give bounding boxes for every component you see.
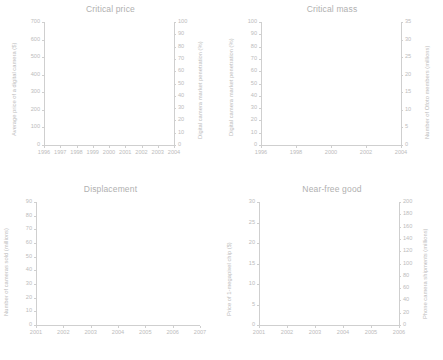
y2-tick-mark (401, 40, 403, 41)
x-tick-mark (401, 146, 402, 148)
y2-tick-mark (399, 214, 401, 215)
y2-tick-mark (401, 57, 403, 58)
x-tick-mark (118, 326, 119, 328)
x-tick-mark (109, 146, 110, 148)
y-tick-mark (42, 22, 44, 23)
x-tick-label: 2003 (84, 330, 96, 336)
y-tick-label: 300 (18, 89, 40, 95)
y-tick-mark (42, 127, 44, 128)
x-tick-mark (331, 146, 332, 148)
y-tick-label: 50 (235, 81, 257, 87)
y-tick-label: 60 (235, 68, 257, 74)
x-tick-label: 2004 (395, 150, 407, 156)
y-tick-mark (257, 284, 259, 285)
y-tick-label: 0 (233, 322, 255, 328)
y2-tick-label: 30 (405, 37, 425, 43)
y2-tick-label: 20 (403, 310, 423, 316)
x-tick-label: 2000 (103, 150, 115, 156)
y-tick-mark (259, 84, 261, 85)
y2-tick-mark (174, 71, 176, 72)
y2-axis-title: Phone camera shipments (millions) (423, 228, 429, 319)
x-tick-mark (173, 326, 174, 328)
y-tick-mark (34, 270, 36, 271)
y-tick-mark (34, 243, 36, 244)
x-tick-label: 1996 (38, 150, 50, 156)
x-tick-label: 2002 (281, 330, 293, 336)
y2-tick-mark (401, 75, 403, 76)
y-tick-label: 500 (18, 54, 40, 60)
y-tick-mark (34, 202, 36, 203)
panel-displacement: Displacement 010203040506070809020012002… (0, 180, 221, 360)
y-axis-line (259, 202, 260, 325)
y-tick-mark (34, 298, 36, 299)
y2-tick-mark (174, 22, 176, 23)
x-tick-label: 2004 (168, 150, 180, 156)
y-tick-label: 25 (233, 220, 255, 226)
y2-tick-label: 15 (405, 89, 425, 95)
y-tick-mark (259, 59, 261, 60)
y-tick-label: 0 (18, 142, 40, 148)
y-tick-mark (34, 229, 36, 230)
x-tick-label: 2002 (135, 150, 147, 156)
y-tick-label: 20 (10, 295, 32, 301)
plot-area-3: 0510152025300204060801001201401601802002… (221, 180, 443, 360)
y-tick-label: 30 (233, 199, 255, 205)
y2-tick-label: 5 (405, 124, 425, 130)
y2-tick-label: 160 (403, 224, 423, 230)
y2-axis-title: Digital camera market penetration (%) (198, 41, 204, 139)
y-tick-label: 30 (235, 105, 257, 111)
x-tick-mark (174, 146, 175, 148)
x-tick-mark (142, 146, 143, 148)
y-tick-mark (42, 92, 44, 93)
x-tick-label: 2005 (365, 330, 377, 336)
x-tick-label: 2001 (30, 330, 42, 336)
y2-tick-label: 80 (403, 273, 423, 279)
y-tick-label: 90 (10, 199, 32, 205)
y-tick-label: 80 (235, 44, 257, 50)
y2-tick-mark (174, 59, 176, 60)
y2-tick-label: 40 (403, 297, 423, 303)
y-tick-mark (34, 257, 36, 258)
y2-tick-label: 120 (403, 248, 423, 254)
x-tick-mark (296, 146, 297, 148)
y2-tick-mark (174, 34, 176, 35)
x-tick-label: 2005 (139, 330, 151, 336)
y-tick-label: 5 (233, 302, 255, 308)
y-axis-title: Average price of a digital camera ($) (12, 43, 18, 136)
y2-tick-mark (401, 127, 403, 128)
x-tick-label: 2004 (112, 330, 124, 336)
panel-near-free-good: Near-free good 0510152025300204060801001… (221, 180, 443, 360)
x-tick-label: 2003 (152, 150, 164, 156)
y-axis-title: Number of cameras sold (millions) (4, 228, 10, 316)
y2-tick-mark (401, 92, 403, 93)
y-tick-label: 30 (10, 281, 32, 287)
y2-tick-mark (174, 84, 176, 85)
x-tick-mark (366, 146, 367, 148)
x-tick-mark (343, 326, 344, 328)
y2-tick-label: 0 (405, 142, 425, 148)
y2-tick-mark (399, 239, 401, 240)
y2-tick-label: 20 (405, 72, 425, 78)
y-tick-mark (42, 40, 44, 41)
x-tick-label: 1998 (290, 150, 302, 156)
y2-tick-label: 10 (405, 107, 425, 113)
y-tick-label: 0 (235, 142, 257, 148)
y-tick-mark (257, 243, 259, 244)
y-tick-mark (42, 75, 44, 76)
y2-tick-label: 50 (178, 81, 198, 87)
x-tick-label: 1997 (54, 150, 66, 156)
y-tick-label: 0 (10, 322, 32, 328)
x-tick-mark (63, 326, 64, 328)
y-tick-mark (259, 71, 261, 72)
y-tick-label: 100 (235, 19, 257, 25)
y-tick-label: 400 (18, 72, 40, 78)
y-axis-line (261, 22, 262, 145)
y2-tick-mark (401, 22, 403, 23)
y2-tick-label: 60 (403, 285, 423, 291)
x-tick-mark (287, 326, 288, 328)
x-tick-mark (125, 146, 126, 148)
x-tick-mark (145, 326, 146, 328)
y2-tick-label: 10 (178, 130, 198, 136)
y2-tick-mark (401, 110, 403, 111)
y2-tick-mark (399, 227, 401, 228)
